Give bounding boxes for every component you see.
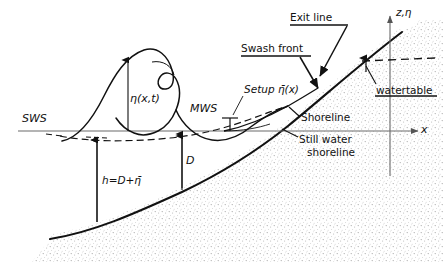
- setup-label: Setup η̄(x): [244, 84, 299, 95]
- shoreline-label: Shoreline: [301, 112, 350, 123]
- definition-sketch-figure: [0, 0, 443, 262]
- setup-leader: [233, 96, 243, 115]
- wave-curl-detail: [152, 62, 174, 75]
- mws-label: MWS: [190, 103, 217, 114]
- diagram-root: SWS MWS η(x,t) Setup η̄(x) D h=D+η̄ Swas…: [0, 0, 443, 262]
- depth-h-label: h=D+η̄: [102, 175, 141, 186]
- watertable-label: watertable: [376, 85, 433, 96]
- z-axis-label: z,η: [396, 7, 412, 18]
- still-water-shoreline-label-line1: Still water: [299, 134, 352, 145]
- depth-D-label: D: [186, 155, 194, 166]
- sws-label: SWS: [22, 113, 47, 124]
- swash-front-leader: [300, 57, 318, 88]
- mws-left-stub: [46, 134, 62, 136]
- breaking-wave-profile: [62, 49, 179, 141]
- shoreline-leader: [289, 107, 299, 116]
- exit-line-label: Exit line: [290, 12, 332, 23]
- mws-dashed-curve: [60, 106, 288, 141]
- swash-front-label: Swash front: [241, 43, 303, 54]
- still-water-shoreline-label-line2: shoreline: [307, 147, 355, 158]
- exit-line-leader: [320, 26, 347, 76]
- x-axis-label: x: [421, 124, 428, 135]
- eta-instant-label: η(x,t): [130, 93, 160, 104]
